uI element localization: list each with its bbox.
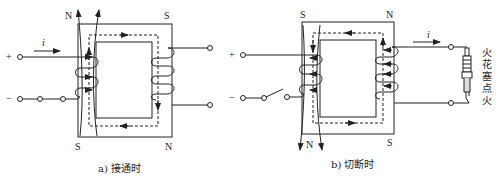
flux-path <box>313 33 383 123</box>
current-label: i <box>42 37 45 48</box>
terminal-plus: + <box>229 49 235 60</box>
core-window <box>320 40 376 117</box>
terminal-minus: − <box>229 92 235 103</box>
secondary-coil <box>376 47 452 103</box>
terminal-minus: − <box>6 93 12 104</box>
spark-plug-label-char: 点 <box>482 83 492 94</box>
spark-plug-label-char: 花 <box>482 58 492 70</box>
caption-b: b) 切断时 <box>331 158 374 170</box>
core-window <box>96 42 152 118</box>
field-line <box>317 25 322 150</box>
pole-label: N <box>165 141 172 152</box>
pole-label: S <box>164 10 170 21</box>
primary-coil <box>20 57 98 99</box>
secondary-coil <box>152 48 211 105</box>
pole-label: N <box>306 139 313 150</box>
pole-label: N <box>65 10 72 21</box>
panel-a <box>18 10 213 137</box>
spark-plug-label-char: 火 <box>482 47 492 58</box>
spark-plug-label-char: 塞 <box>482 70 492 82</box>
primary-coil <box>243 55 322 97</box>
flux-path <box>89 35 158 126</box>
open-switch <box>266 89 283 97</box>
caption-a: a) 接通时 <box>98 162 141 174</box>
current-label: i <box>427 29 430 40</box>
core-outer <box>78 24 172 137</box>
pole-label: S <box>387 137 393 148</box>
spark-plug <box>454 47 473 103</box>
terminal-plus: + <box>6 51 12 62</box>
field-line <box>78 10 82 136</box>
pole-label: N <box>386 9 393 20</box>
pole-label: S <box>75 141 81 152</box>
spark-plug-label-char: 火 <box>482 95 492 106</box>
pole-label: S <box>300 9 306 20</box>
panel-b <box>241 22 473 150</box>
ignition-coil-diagram: i + − N S S N a) 接通时 <box>0 0 499 182</box>
